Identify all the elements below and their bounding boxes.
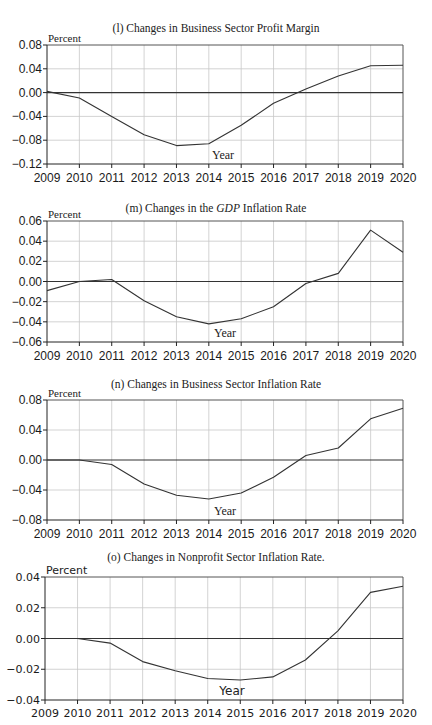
- x-tick-label: 2019: [356, 707, 384, 720]
- x-axis-title: Year: [218, 684, 244, 698]
- chart-title: (o) Changes in Nonprofit Sector Inflatio…: [0, 551, 432, 563]
- x-tick-label: 2010: [64, 707, 92, 720]
- chart-title: (m) Changes in the GDP Inflation Rate: [0, 202, 432, 214]
- y-axis-title: Percent: [46, 564, 88, 577]
- x-tick-label: 2015: [226, 707, 254, 720]
- x-tick-label: 2020: [389, 707, 417, 720]
- chart-title-text: (m) Changes in the: [126, 202, 217, 214]
- x-tick-label: 2016: [259, 707, 287, 720]
- chart-title-text: (o) Changes in Nonprofit Sector Inflatio…: [107, 551, 325, 563]
- y-tick-label: −0.02: [6, 663, 40, 676]
- chart-title: (n) Changes in Business Sector Inflation…: [0, 378, 432, 390]
- chart-title-text: (n) Changes in Business Sector Inflation…: [111, 378, 321, 390]
- chart-title: (l) Changes in Business Sector Profit Ma…: [0, 22, 432, 34]
- y-tick-label: −0.04: [6, 694, 40, 707]
- y-tick-label: 0.04: [16, 571, 41, 584]
- x-tick-label: 2017: [291, 707, 319, 720]
- x-tick-label: 2011: [96, 707, 124, 720]
- x-tick-label: 2012: [129, 707, 157, 720]
- data-series-line: [45, 586, 403, 680]
- y-tick-label: 0.00: [16, 633, 41, 646]
- y-tick-label: 0.02: [16, 602, 41, 615]
- x-tick-label: 2009: [31, 707, 59, 720]
- x-tick-label: 2018: [324, 707, 352, 720]
- chart-title-text: (l) Changes in Business Sector Profit Ma…: [113, 22, 320, 34]
- x-tick-label: 2014: [194, 707, 222, 720]
- line-chart-3: 0.040.020.00−0.02−0.04200920102011201220…: [0, 0, 432, 725]
- x-tick-label: 2013: [161, 707, 189, 720]
- chart-title-suffix: Inflation Rate: [240, 202, 306, 214]
- chart-title-italic: GDP: [216, 202, 240, 214]
